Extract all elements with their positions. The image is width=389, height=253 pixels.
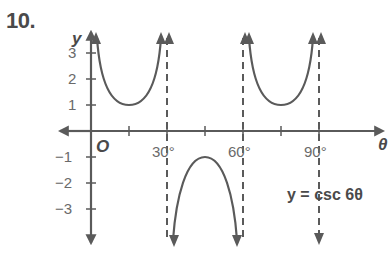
asymptotes: [167, 38, 319, 240]
asymptote-arrows: [164, 32, 326, 245]
equation-label: y = csc 6θ: [287, 186, 363, 203]
y-tick-label-neg2: −2: [55, 174, 72, 191]
origin-label: O: [96, 137, 109, 156]
csc-graph: y θ O 3 2 1 −1 −2 −3 30° 60° 90° y = csc…: [0, 0, 389, 253]
y-tick-label-2: 2: [68, 70, 76, 87]
x-tick-label-60: 60°: [228, 143, 251, 160]
y-tick-label-neg1: −1: [55, 148, 72, 165]
x-tick-label-90: 90°: [304, 143, 327, 160]
y-tick-label-3: 3: [68, 44, 76, 61]
x-tick-label-30: 30°: [152, 143, 175, 160]
branch-60-90: [249, 38, 313, 105]
y-tick-label-neg3: −3: [55, 200, 72, 217]
branch-0-30: [97, 38, 161, 105]
csc-curve: [97, 38, 313, 240]
curve-arrows: [91, 32, 318, 247]
branch-30-60: [173, 157, 237, 240]
x-axis-label: θ: [378, 135, 388, 154]
y-tick-label-1: 1: [68, 96, 76, 113]
